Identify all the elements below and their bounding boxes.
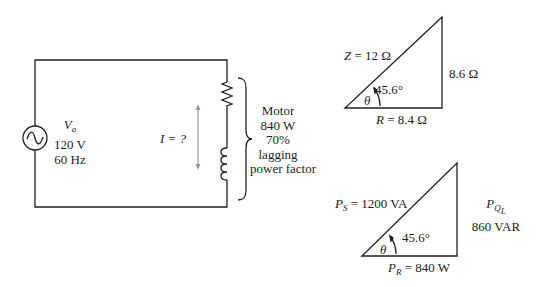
pr-symbol: P	[388, 260, 396, 275]
pr-subscript: R	[396, 267, 402, 277]
z-symbol: Z	[344, 48, 351, 63]
source-symbol: V	[64, 117, 72, 132]
pq-value: 860 VAR	[466, 219, 526, 234]
r-value: = 8.4 Ω	[387, 112, 427, 127]
reactance-label: 8.6 Ω	[449, 66, 478, 81]
ps-symbol: P	[335, 196, 343, 211]
source-frequency: 60 Hz	[52, 152, 88, 167]
reactive-power-label: PQL 860 VAR	[466, 196, 526, 234]
theta-text: θ	[364, 93, 370, 108]
current-text: I = ?	[160, 131, 186, 146]
theta-text: θ	[380, 242, 386, 257]
apparent-power-label: PS = 1200 VA	[335, 196, 407, 216]
power-theta-symbol: θ	[380, 242, 386, 257]
resistor-icon	[222, 82, 232, 110]
pr-value: = 840 W	[405, 260, 450, 275]
pq-subsubscript: L	[501, 206, 506, 216]
ps-value: = 1200 VA	[351, 196, 408, 211]
theta-symbol: θ	[364, 93, 370, 108]
source-voltage: 120 V	[52, 137, 88, 152]
current-arrow-icon	[196, 104, 201, 170]
impedance-label: Z = 12 Ω	[344, 48, 391, 63]
current-label: I = ?	[160, 131, 186, 146]
source-label: Va 120 V 60 Hz	[52, 117, 88, 167]
real-power-label: PR = 840 W	[388, 260, 450, 280]
power-angle-label: 45.6°	[402, 230, 430, 245]
angle-label: 45.6°	[375, 82, 403, 97]
motor-line: power factor	[250, 162, 306, 177]
resistance-label: R = 8.4 Ω	[376, 112, 427, 127]
ps-subscript: S	[343, 203, 348, 213]
motor-line: lagging	[250, 148, 306, 163]
motor-line: Motor	[250, 104, 306, 119]
r-symbol: R	[376, 112, 384, 127]
motor-line: 70%	[250, 133, 306, 148]
z-value: = 12 Ω	[354, 48, 391, 63]
source-subscript: a	[72, 124, 77, 134]
inductor-icon	[221, 148, 227, 180]
motor-line: 840 W	[250, 119, 306, 134]
motor-label: Motor 840 W 70% lagging power factor	[250, 104, 306, 177]
